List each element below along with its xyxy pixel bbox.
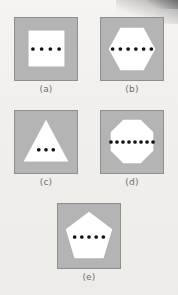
octagon-shape-icon xyxy=(101,110,163,174)
side-count-dot xyxy=(87,235,91,239)
panel-a-caption: (a) xyxy=(39,84,52,95)
side-count-dot xyxy=(121,140,125,144)
side-count-dot xyxy=(109,140,113,144)
panel-a-box xyxy=(14,17,78,81)
side-count-dot xyxy=(37,148,41,152)
side-count-dot xyxy=(115,140,119,144)
panel-d-caption: (d) xyxy=(125,177,138,188)
side-count-dot xyxy=(73,235,77,239)
polygon-dot-figure: (a) (b) (c) (d) xyxy=(0,0,178,295)
side-count-dot xyxy=(142,47,146,51)
side-count-dot xyxy=(49,47,53,51)
side-count-dot xyxy=(145,140,149,144)
side-count-dot xyxy=(134,47,138,51)
panel-e: (e) xyxy=(57,203,121,283)
panel-d-box xyxy=(100,110,164,174)
side-count-dot xyxy=(139,140,143,144)
panel-b: (b) xyxy=(100,17,164,95)
side-count-dot xyxy=(133,140,137,144)
side-count-dot xyxy=(111,47,115,51)
hexagon-shape-icon xyxy=(101,17,163,81)
side-count-dot xyxy=(119,47,123,51)
panel-b-caption: (b) xyxy=(125,84,138,95)
square-shape-icon xyxy=(15,17,77,81)
panel-c-box xyxy=(14,110,78,174)
side-count-dot xyxy=(51,148,55,152)
side-count-dot xyxy=(126,47,130,51)
panel-c: (c) xyxy=(14,110,78,188)
side-count-dot xyxy=(31,47,35,51)
side-count-dot xyxy=(44,148,48,152)
triangle-shape-icon xyxy=(15,110,77,174)
dot-group-c xyxy=(37,148,55,152)
panel-b-box xyxy=(100,17,164,81)
side-count-dot xyxy=(40,47,44,51)
pentagon-shape-icon xyxy=(58,203,120,269)
side-count-dot xyxy=(151,140,155,144)
side-count-dot xyxy=(80,235,84,239)
panel-c-caption: (c) xyxy=(40,177,53,188)
side-count-dot xyxy=(127,140,131,144)
panel-a: (a) xyxy=(14,17,78,95)
side-count-dot xyxy=(101,235,105,239)
panel-e-box xyxy=(57,203,121,269)
side-count-dot xyxy=(150,47,154,51)
side-count-dot xyxy=(94,235,98,239)
panel-d: (d) xyxy=(100,110,164,188)
side-count-dot xyxy=(57,47,61,51)
panel-e-caption: (e) xyxy=(82,272,95,283)
